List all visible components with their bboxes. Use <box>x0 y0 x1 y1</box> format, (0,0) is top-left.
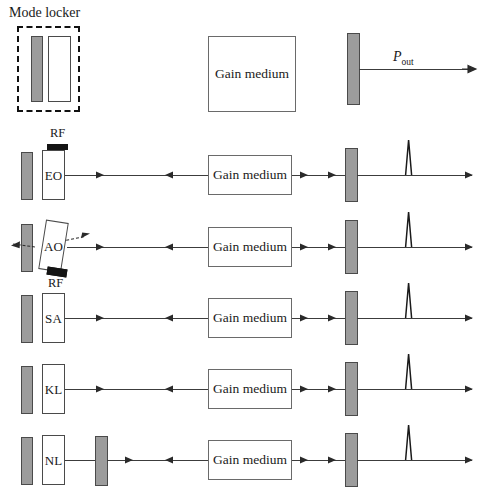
row-kl-output-pulse <box>399 353 419 390</box>
row-ao-rf-label: RF <box>48 277 63 290</box>
row-eo-gain-medium-label: Gain medium <box>213 167 287 183</box>
row-sa-modulator-label: SA <box>45 312 62 325</box>
row-cw-gain-medium-label: Gain medium <box>215 66 289 82</box>
row-kl-right-beam-arrowhead-right-2 <box>327 383 339 395</box>
row-cw-output-arrowhead <box>462 63 478 75</box>
row-cw-output-beam <box>359 69 469 70</box>
row-nl-right-beam-arrowhead-right <box>299 454 311 466</box>
row-nl-gain-medium: Gain medium <box>208 440 292 480</box>
row-nl-intracavity-beam <box>65 460 95 461</box>
mode-locker-caption: Mode locker <box>9 6 80 20</box>
row-sa-left-beam-arrowhead-left <box>164 312 176 324</box>
row-sa-left-beam <box>65 318 208 319</box>
row-kl-modulator-label: KL <box>45 383 63 396</box>
row-nl-output-arrowhead <box>464 454 476 466</box>
row-nl-extra-mirror <box>95 436 108 486</box>
row-ao-diffracted-arrowhead-left <box>10 239 22 251</box>
row-ao-left-beam <box>67 247 208 248</box>
row-ao-diffracted-arrowhead-right <box>80 230 92 242</box>
row-ao-output-pulse <box>399 211 419 248</box>
row-ao-gain-medium-label: Gain medium <box>213 239 287 255</box>
row-cw-modulator-box <box>48 36 71 102</box>
row-sa-gain-medium-label: Gain medium <box>213 310 287 326</box>
row-cw-gain-medium: Gain medium <box>208 36 296 112</box>
row-nl-modulator-box: NL <box>42 435 65 485</box>
row-kl-left-beam <box>65 389 208 390</box>
row-sa-rear-mirror <box>21 295 33 343</box>
row-sa-right-beam-arrowhead-right <box>299 312 311 324</box>
row-kl-right-beam-arrowhead-right <box>299 383 311 395</box>
row-eo-right-beam-arrowhead-right-2 <box>327 169 339 181</box>
row-eo-modulator-label: EO <box>45 169 63 182</box>
row-cw-rear-mirror <box>31 36 43 102</box>
row-ao-rear-mirror <box>21 224 33 272</box>
row-kl-gain-medium-label: Gain medium <box>213 381 287 397</box>
row-sa-output-pulse <box>399 282 419 319</box>
row-eo-rf-label: RF <box>50 127 65 140</box>
row-eo-rear-mirror <box>21 152 33 200</box>
row-kl-output-arrowhead <box>464 383 476 395</box>
row-sa-modulator-box: SA <box>42 293 65 343</box>
row-kl-left-beam-arrowhead-right <box>95 383 107 395</box>
row-eo-left-beam <box>65 175 208 176</box>
row-sa-left-beam-arrowhead-right <box>95 312 107 324</box>
output-power-symbol: P <box>393 49 402 64</box>
row-kl-rear-mirror <box>21 366 33 414</box>
row-kl-gain-medium: Gain medium <box>208 369 292 409</box>
row-eo-left-beam-arrowhead-right <box>95 169 107 181</box>
row-eo-output-arrowhead <box>464 169 476 181</box>
row-nl-left-beam-arrowhead-left <box>164 454 176 466</box>
row-nl-left-beam <box>107 460 208 461</box>
row-ao-left-beam-arrowhead-right <box>95 241 107 253</box>
row-sa-output-arrowhead <box>464 312 476 324</box>
row-nl-gain-medium-label: Gain medium <box>213 452 287 468</box>
row-eo-output-pulse <box>399 139 419 176</box>
row-eo-left-beam-arrowhead-left <box>164 169 176 181</box>
row-ao-left-beam-arrowhead-left <box>164 241 176 253</box>
row-kl-modulator-box: KL <box>42 364 65 414</box>
row-nl-modulator-label: NL <box>45 454 63 467</box>
row-eo-right-beam-arrowhead-right <box>299 169 311 181</box>
row-ao-modulator-box: AO <box>38 220 69 273</box>
figure-canvas: Mode locker Gain medium Pout RF EO Gain … <box>0 0 492 503</box>
row-eo-modulator-box: EO <box>42 150 65 200</box>
output-power-label: Pout <box>393 50 414 67</box>
row-ao-modulator-label: AO <box>44 240 63 253</box>
row-nl-rear-mirror <box>21 437 33 485</box>
output-power-subscript: out <box>402 57 414 67</box>
row-nl-right-beam-arrowhead-right-2 <box>327 454 339 466</box>
row-sa-gain-medium: Gain medium <box>208 298 292 338</box>
row-ao-gain-medium: Gain medium <box>208 227 292 267</box>
row-ao-right-beam-arrowhead-right-2 <box>327 241 339 253</box>
row-nl-left-beam-arrowhead-right <box>124 454 136 466</box>
row-kl-left-beam-arrowhead-left <box>164 383 176 395</box>
row-sa-right-beam-arrowhead-right-2 <box>327 312 339 324</box>
row-ao-right-beam-arrowhead-right <box>299 241 311 253</box>
row-ao-output-arrowhead <box>464 241 476 253</box>
row-eo-gain-medium: Gain medium <box>208 155 292 195</box>
row-nl-output-pulse <box>399 424 419 461</box>
